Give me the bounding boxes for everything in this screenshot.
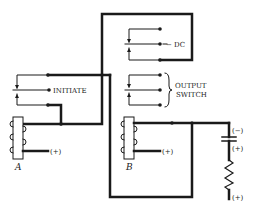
capacitor-positive-label: (+) (232, 145, 244, 153)
circuit-diagram: INITIATE − DC OUTPUT SWITCH A B (+) (+) … (0, 0, 254, 206)
coil-a-supply-label: (+) (50, 148, 62, 156)
output-switch-label-1: OUTPUT (175, 82, 207, 90)
dc-label: − DC (166, 41, 185, 49)
coil-a-feed-wire (23, 75, 102, 126)
dc-contact-set (125, 27, 167, 62)
coil-b-supply-label: (+) (162, 148, 174, 156)
resistor-supply-label: (+) (232, 194, 244, 202)
output-switch-label-2: SWITCH (176, 91, 207, 99)
capacitor-negative-label: (−) (232, 127, 244, 135)
coil-a-label: A (14, 162, 22, 172)
coil-b-label: B (125, 162, 133, 172)
initiate-label: INITIATE (53, 87, 87, 95)
relay-coil-b (121, 117, 229, 159)
output-contact-set (125, 73, 172, 107)
initiate-contact-set (13, 73, 110, 124)
